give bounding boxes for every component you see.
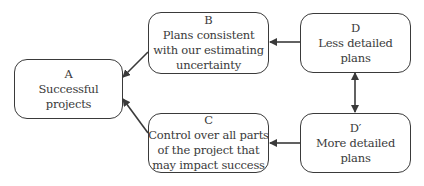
node-d-line-2: plans (340, 51, 370, 66)
edge-b-to-a (123, 52, 148, 77)
node-c-control-over-parts: C Control over all parts of the project … (148, 113, 269, 173)
node-d-label: D (351, 21, 360, 36)
node-b-plans-consistent: B Plans consistent with our estimating u… (148, 12, 269, 74)
node-a-line-1: Successful (38, 82, 98, 97)
node-d-less-detailed-plans: D Less detailed plans (300, 13, 411, 73)
node-b-label: B (204, 13, 212, 28)
node-a-line-2: projects (46, 97, 92, 112)
edge-c-to-a (123, 99, 148, 133)
node-dprime-label: D′ (350, 121, 361, 136)
node-b-line-2: with our estimating (153, 43, 264, 58)
node-b-line-3: uncertainty (176, 58, 241, 73)
node-c-line-2: of the project that (158, 143, 260, 158)
node-c-line-3: may impact success (152, 158, 265, 173)
node-a-successful-projects: A Successful projects (14, 59, 123, 119)
node-a-label: A (64, 67, 72, 82)
node-c-label: C (204, 113, 213, 128)
node-d-line-1: Less detailed (318, 36, 392, 51)
node-c-line-1: Control over all parts (148, 128, 269, 143)
node-dprime-line-1: More detailed (316, 136, 395, 151)
node-b-line-1: Plans consistent (163, 28, 255, 43)
node-dprime-more-detailed-plans: D′ More detailed plans (300, 113, 411, 173)
node-dprime-line-2: plans (340, 151, 370, 166)
